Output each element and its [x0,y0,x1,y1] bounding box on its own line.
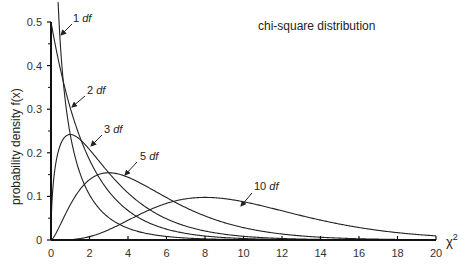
x-tick-label: 2 [86,247,92,259]
arrow-2-df [72,96,85,107]
y-axis-label: probability density f(x) [9,88,23,205]
curve-3-df [51,135,436,241]
x-tick-label: 16 [353,247,365,259]
x-tick-label: 6 [163,247,169,259]
y-tick-label: 0.5 [27,16,42,28]
label-3-df: 3 df [104,123,123,135]
x-tick-label: 18 [391,247,403,259]
label-10-df: 10 df [254,180,279,192]
density-curves [51,2,436,240]
axes: 0246810121416182000.10.20.30.40.5 [27,16,442,259]
chart-title: chi-square distribution [258,19,375,33]
label-2-df: 2 df [87,84,106,96]
chi-square-chart: 0246810121416182000.10.20.30.40.5 1 df2 … [0,0,467,272]
label-1-df: 1 df [73,12,92,24]
arrow-5-df [125,162,137,175]
label-5-df: 5 df [140,150,159,162]
y-tick-label: 0.1 [27,190,42,202]
x-tick-label: 10 [237,247,249,259]
arrow-3-df [91,135,102,146]
curve-1-df [58,2,436,240]
x-tick-label: 0 [48,247,54,259]
x-tick-label: 4 [125,247,131,259]
y-tick-label: 0.2 [27,147,42,159]
y-tick-label: 0 [36,234,42,246]
arrow-10-df [241,193,252,206]
x-tick-label: 20 [430,247,442,259]
y-tick-label: 0.3 [27,103,42,115]
arrow-1-df [61,24,72,35]
x-tick-label: 14 [314,247,326,259]
x-axis-label: χ2 [446,232,458,249]
x-tick-label: 12 [276,247,288,259]
y-tick-label: 0.4 [27,60,42,72]
x-tick-label: 8 [202,247,208,259]
